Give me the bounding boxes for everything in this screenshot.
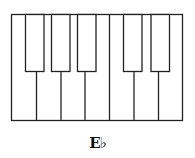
- black-key: [124, 15, 143, 72]
- black-key: [52, 15, 71, 72]
- piano-keyboard: [0, 0, 195, 125]
- key-label: E♭: [0, 134, 195, 152]
- black-key: [78, 15, 97, 72]
- black-key: [26, 15, 45, 72]
- black-key: [151, 15, 170, 72]
